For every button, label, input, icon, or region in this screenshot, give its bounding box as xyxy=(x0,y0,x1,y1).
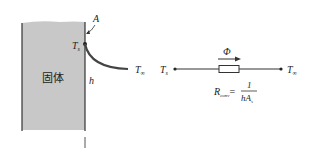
left-node-label: Ts xyxy=(160,64,169,76)
coef-label: h xyxy=(89,75,94,86)
resistance-label: Rconv= xyxy=(213,86,236,98)
fraction-denominator: hAs xyxy=(241,93,253,104)
temperature-profile-curve xyxy=(85,44,128,69)
convection-diagram: 固体 A Ts h T∞ Ts T∞ Φ Rconv= 1 hAs xyxy=(0,0,313,155)
flux-label: Φ xyxy=(223,46,231,57)
fluid-temp-label: T∞ xyxy=(135,64,146,76)
fraction-numerator: 1 xyxy=(247,80,252,90)
right-node-label: T∞ xyxy=(287,64,298,76)
solid-label: 固体 xyxy=(42,71,64,85)
resistor xyxy=(219,66,239,73)
right-node xyxy=(279,67,282,70)
area-label: A xyxy=(92,13,100,24)
